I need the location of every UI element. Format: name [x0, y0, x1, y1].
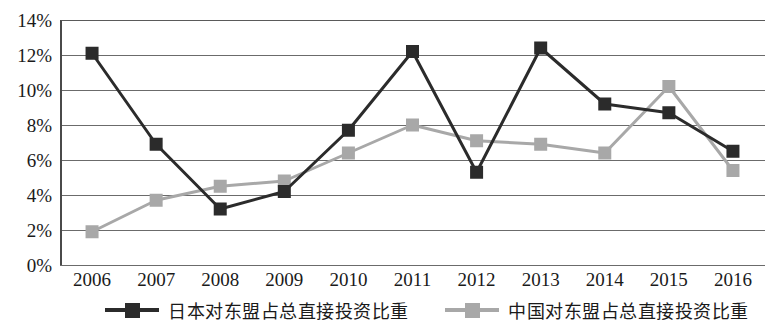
x-axis-tick-label: 2011	[394, 270, 431, 291]
legend-swatch-icon	[105, 302, 159, 318]
data-point-marker	[598, 98, 611, 111]
legend-label: 中国对东盟占总直接投资比重	[508, 297, 749, 322]
y-axis-tick-label: 12%	[0, 46, 52, 65]
series-layer	[60, 20, 765, 265]
x-axis-tick-label: 2008	[201, 270, 239, 291]
x-axis-tick-label: 2009	[265, 270, 303, 291]
legend-item[interactable]: 日本对东盟占总直接投资比重	[105, 298, 409, 322]
y-axis-tick-label: 6%	[0, 151, 52, 170]
chart-legend: 日本对东盟占总直接投资比重中国对东盟占总直接投资比重	[0, 298, 769, 322]
y-axis-tick-label: 14%	[0, 11, 52, 30]
data-point-marker	[214, 203, 227, 216]
data-point-marker	[86, 47, 99, 60]
data-point-marker	[150, 194, 163, 207]
legend-label: 日本对东盟占总直接投资比重	[168, 297, 409, 322]
data-point-marker	[214, 180, 227, 193]
legend-item[interactable]: 中国对东盟占总直接投资比重	[445, 298, 749, 322]
data-point-marker	[534, 138, 547, 151]
x-axis-tick-label: 2010	[329, 270, 367, 291]
y-axis-tick-label: 8%	[0, 116, 52, 135]
data-point-marker	[662, 106, 675, 119]
x-axis-tick-label: 2006	[73, 270, 111, 291]
data-point-marker	[662, 80, 675, 93]
y-axis-tick-label: 10%	[0, 81, 52, 100]
legend-marker	[125, 303, 140, 318]
x-axis-tick-label: 2014	[586, 270, 624, 291]
data-point-marker	[470, 166, 483, 179]
y-axis-tick-label: 0%	[0, 256, 52, 275]
x-axis-tick-label: 2016	[714, 270, 752, 291]
x-axis-tick-label: 2012	[458, 270, 496, 291]
data-point-marker	[726, 164, 739, 177]
plot-area	[60, 20, 765, 265]
line-chart: 14%12%10%8%6%4%2%0% 20062007200820092010…	[0, 0, 769, 322]
x-axis-tick-label: 2015	[650, 270, 688, 291]
data-point-marker	[406, 119, 419, 132]
y-axis-tick-label: 2%	[0, 221, 52, 240]
y-axis: 14%12%10%8%6%4%2%0%	[0, 0, 52, 322]
gridline	[60, 265, 765, 266]
data-point-marker	[726, 145, 739, 158]
x-axis-tick-label: 2013	[522, 270, 560, 291]
data-point-marker	[86, 225, 99, 238]
x-axis-tick-label: 2007	[137, 270, 175, 291]
data-point-marker	[278, 185, 291, 198]
data-point-marker	[598, 147, 611, 160]
x-axis: 2006200720082009201020112012201320142015…	[60, 270, 765, 296]
data-point-marker	[150, 138, 163, 151]
data-point-marker	[342, 124, 355, 137]
data-point-marker	[534, 42, 547, 55]
y-axis-tick-label: 4%	[0, 186, 52, 205]
legend-swatch-icon	[445, 302, 499, 318]
data-point-marker	[342, 147, 355, 160]
legend-marker	[465, 303, 480, 318]
data-point-marker	[406, 45, 419, 58]
data-point-marker	[470, 134, 483, 147]
